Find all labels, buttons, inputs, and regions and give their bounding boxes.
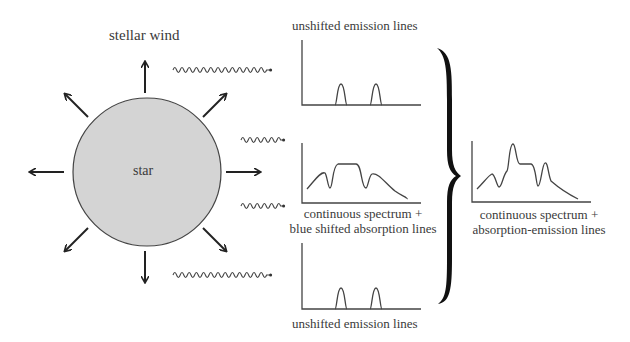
stellar-wind-label: stellar wind: [109, 28, 179, 43]
result-panel-label: continuous spectrum + absorption-emissio…: [464, 207, 614, 237]
panel-middle-absorption: [302, 143, 421, 203]
arrow-down-right-icon: [203, 228, 226, 251]
light-ray-middle-lower-icon: [241, 204, 284, 209]
result-panel-label-line1: continuous spectrum +: [464, 207, 614, 222]
star-label: star: [133, 163, 153, 178]
light-ray-bottom-icon: [173, 273, 271, 278]
top-panel-label: unshifted emission lines: [292, 18, 418, 33]
light-ray-top-icon: [173, 68, 271, 73]
panel-top-emission: [302, 40, 421, 105]
panel-result-combined: [472, 141, 591, 202]
arrow-up-left-icon: [65, 94, 88, 117]
arrow-down-left-icon: [65, 228, 88, 251]
curly-brace-icon: [437, 48, 461, 304]
light-ray-middle-upper-icon: [241, 138, 284, 143]
arrow-up-right-icon: [203, 94, 226, 117]
middle-panel-label-line1: continuous spectrum +: [283, 206, 443, 221]
middle-panel-label-line2: blue shifted absorption lines: [283, 221, 443, 236]
middle-panel-label: continuous spectrum + blue shifted absor…: [283, 206, 443, 236]
stellar-wind-diagram: [0, 0, 630, 342]
result-panel-label-line2: absorption-emission lines: [464, 222, 614, 237]
bottom-panel-label: unshifted emission lines: [292, 316, 418, 331]
panel-bottom-emission: [302, 243, 421, 309]
